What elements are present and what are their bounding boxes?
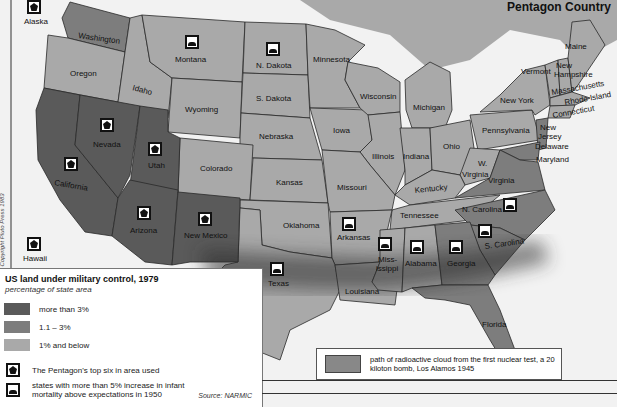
infant-mortality-icon [269, 49, 277, 53]
cloud-swatch [325, 355, 361, 373]
label-nebraska: Nebraska [259, 132, 294, 141]
label-nh-line2: Hampshire [554, 70, 593, 79]
infant-mortality-icon [273, 269, 281, 273]
label-kansas: Kansas [276, 178, 303, 187]
legend-item-pentagon: The Pentagon's top six in area used [4, 363, 159, 377]
label-iowa: Iowa [333, 126, 350, 135]
swatch-light [4, 339, 30, 351]
pentagon-icon [9, 366, 17, 374]
label-sdakota: S. Dakota [256, 94, 292, 103]
source-text: Source: NARMIC [198, 392, 252, 399]
infant-mortality-icon [381, 244, 389, 248]
label-nj-line2: Jersey [538, 132, 562, 141]
label-colorado: Colorado [200, 164, 233, 173]
marker-alaska [27, 0, 41, 14]
label-illinois: Illinois [372, 152, 394, 161]
marker-georgia [449, 240, 463, 254]
infant-mortality-symbol [6, 383, 20, 397]
label-wv-line1: W. [478, 159, 487, 168]
legend-panel: US land under military control, 1979 per… [0, 268, 263, 407]
label-maine: Maine [565, 42, 587, 51]
marker-hawaii [27, 237, 41, 251]
label-georgia: Georgia [447, 259, 476, 268]
label-alaska: Alaska [24, 17, 49, 26]
divider [262, 393, 617, 394]
pentagon-icon [30, 3, 38, 11]
label-louisiana: Louisiana [345, 287, 380, 296]
label-arizona: Arizona [130, 226, 158, 235]
pentagon-icon [140, 209, 148, 217]
pentagon-symbol [6, 363, 20, 377]
label-michigan: Michigan [413, 103, 445, 112]
infant-mortality-icon [481, 231, 489, 235]
marker-north-dakota [266, 42, 280, 56]
legend-label: 1% and below [39, 341, 89, 350]
state-michigan [405, 62, 452, 128]
swatch-medium [4, 321, 30, 333]
marker-nevada [100, 118, 114, 132]
legend-item-below-1: 1% and below [4, 339, 89, 351]
legend-subtitle: percentage of state area [5, 285, 92, 294]
infant-mortality-icon [9, 390, 17, 394]
pentagon-icon [201, 215, 209, 223]
label-maryland: Maryland [536, 155, 569, 164]
divider [262, 380, 617, 381]
swatch-dark [4, 303, 30, 315]
marker-texas [270, 262, 284, 276]
infant-mortality-icon [506, 205, 514, 209]
legend-label: The Pentagon's top six in area used [32, 366, 159, 375]
label-alabama: Alabama [405, 259, 437, 268]
label-montana: Montana [175, 55, 207, 64]
label-ms-line2: issippi [376, 264, 398, 273]
label-indiana: Indiana [403, 152, 430, 161]
label-delaware: Delaware [535, 142, 569, 151]
pentagon-icon [30, 240, 38, 248]
label-newyork: New York [500, 96, 535, 105]
legend-item-more-than-3: more than 3% [4, 303, 89, 315]
label-virginia: Virginia [488, 176, 515, 185]
label-wisconsin: Wisconsin [360, 92, 396, 101]
infant-mortality-icon [345, 224, 353, 228]
label-florida: Florida [482, 320, 507, 329]
label-minnesota: Minnesota [313, 55, 350, 64]
label-missouri: Missouri [337, 183, 367, 192]
legend-item-1-to-3: 1.1 – 3% [4, 321, 71, 333]
marker-arkansas [342, 217, 356, 231]
label-vermont: Vermont [521, 67, 552, 76]
legend-title: US land under military control, 1979 [5, 274, 159, 284]
infant-mortality-icon [188, 42, 196, 46]
label-oklahoma: Oklahoma [283, 221, 320, 230]
label-ms-line1: Miss- [378, 255, 397, 264]
marker-new-mexico [198, 212, 212, 226]
pentagon-icon [151, 145, 159, 153]
label-hawaii: Hawaii [23, 254, 47, 263]
label-utah: Utah [148, 161, 165, 170]
infant-mortality-icon [452, 247, 460, 251]
marker-mississippi [378, 237, 392, 251]
marker-arizona [137, 206, 151, 220]
label-oregon: Oregon [70, 69, 97, 78]
legend-label: more than 3% [39, 305, 89, 314]
marker-north-carolina [503, 198, 517, 212]
label-newmexico: New Mexico [184, 231, 228, 240]
legend-label: states with more than 5% increase in inf… [32, 381, 204, 399]
label-tennessee: Tennessee [400, 211, 439, 220]
copyright-text: © Copyright Pluto Press 1983 [0, 193, 5, 272]
marker-california [64, 157, 78, 171]
legend-label: 1.1 – 3% [39, 323, 71, 332]
label-wv-line2: Virginia [462, 170, 489, 179]
label-wyoming: Wyoming [185, 105, 218, 114]
state-arizona [112, 180, 178, 265]
label-pennsylvania: Pennsylvania [482, 126, 530, 135]
pentagon-icon [103, 121, 111, 129]
label-nh-line1: New [556, 61, 572, 70]
infant-mortality-icon [413, 247, 421, 251]
label-ncarolina: N. Carolina [462, 205, 503, 214]
label-nj-line1: New [540, 123, 556, 132]
label-nevada: Nevada [93, 140, 121, 149]
legend-item-infant-mortality: states with more than 5% increase in inf… [4, 381, 204, 399]
marker-montana [185, 35, 199, 49]
label-texas: Texas [268, 279, 289, 288]
cloud-legend-label: path of radioactive cloud from the first… [370, 355, 560, 373]
label-ohio: Ohio [443, 142, 460, 151]
